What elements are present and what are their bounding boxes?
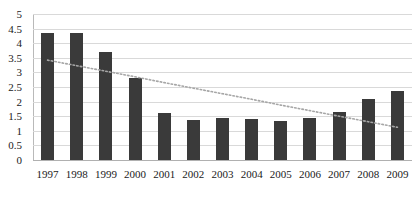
gridline [33,160,412,161]
bar-chart: 00.511.522.533.544.55 199719981999200020… [0,0,418,197]
x-axis-tick-label: 2000 [124,168,146,180]
x-axis-tick-label: 2005 [270,168,292,180]
y-axis-tick-label: 4.5 [0,23,22,34]
y-axis-tick-label: 3 [0,67,22,78]
y-axis-tick-label: 4 [0,38,22,49]
x-axis-tick-label: 2001 [153,168,175,180]
x-axis-tick-label: 2004 [241,168,263,180]
y-axis-tick-label: 2.5 [0,82,22,93]
trendline [33,14,412,160]
x-axis-tick-label: 1997 [37,168,59,180]
x-axis-tick-label: 2009 [386,168,408,180]
x-axis-tick-label: 1998 [66,168,88,180]
y-axis-tick-label: 2 [0,96,22,107]
x-axis-tick-label: 1999 [95,168,117,180]
y-axis-tick-label: 3.5 [0,52,22,63]
y-axis-tick-label: 1 [0,125,22,136]
plot-area: 00.511.522.533.544.55 [33,14,412,160]
x-axis-tick-label: 2006 [299,168,321,180]
x-axis-tick-label: 2008 [357,168,379,180]
y-axis-tick-label: 0.5 [0,140,22,151]
y-axis-tick-label: 1.5 [0,111,22,122]
trendline-path [48,60,398,127]
x-axis-tick-labels: 1997199819992000200120022003200420052006… [33,164,412,186]
x-axis-tick-label: 2002 [182,168,204,180]
x-axis-tick-label: 2003 [212,168,234,180]
y-axis-tick-label: 0 [0,155,22,166]
y-axis-tick-label: 5 [0,9,22,20]
x-axis-tick-label: 2007 [328,168,350,180]
